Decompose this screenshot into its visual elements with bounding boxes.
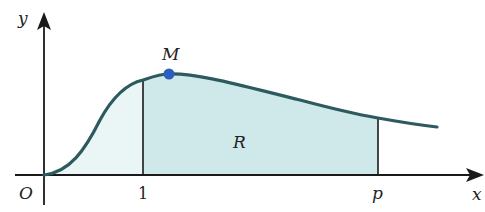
max-point-m [164,69,175,80]
left-shade [44,80,143,175]
region-label: R [232,132,246,152]
origin-label: O [19,183,33,203]
tick-label-p: p [372,183,383,203]
tick-label-1: 1 [138,184,148,203]
diagram-canvas: y x O 1 p M R [0,0,485,212]
y-axis-label: y [17,8,28,28]
x-axis-label: x [472,184,482,204]
max-point-label: M [161,44,180,64]
